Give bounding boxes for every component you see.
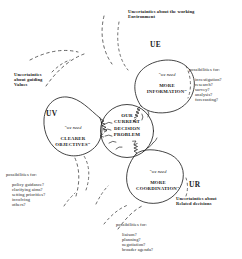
lobe-quote-lead-ur: "we need xyxy=(150,169,167,174)
lobe-quote-lead-uv: "we need xyxy=(65,125,82,130)
lobe-quote-body-uv: CLEARER OBJECTIVES" xyxy=(55,136,90,147)
caption-ue: Uncertainties about the working Environm… xyxy=(128,9,236,19)
possibilities-items-uv: policy guidance? clarifying aims? settin… xyxy=(6,182,68,207)
lobe-code-ur: UR xyxy=(189,181,200,189)
possibilities-items-ue: investigation? research? survey? analysi… xyxy=(189,77,242,102)
caption-ur: Uncertainties about Related decisions xyxy=(176,196,240,206)
possibilities-head-ue: possibilities for: xyxy=(189,67,242,72)
possibilities-head-ur: possibilities for: xyxy=(116,222,196,227)
lobe-code-ue: UE xyxy=(150,41,161,49)
lobe-quote-uv: "we need CLEARER OBJECTIVES" xyxy=(46,119,100,148)
possibilities-uv: possibilities for: policy guidance? clar… xyxy=(6,167,68,212)
possibilities-head-uv: possibilities for: xyxy=(6,172,68,177)
possibilities-ur: possibilities for: liaison? planning? ne… xyxy=(116,217,196,257)
possibilities-items-ur: liaison? planning? negotiation? broader … xyxy=(116,232,196,252)
core-label: OUR CURRENT DECISION PROBLEM xyxy=(103,113,151,138)
connector-ur-to-core xyxy=(133,141,138,153)
diagram-canvas: .ink { fill: none; stroke: #232323; stro… xyxy=(0,0,242,259)
lobe-code-uv: UV xyxy=(46,110,57,118)
lobe-quote-ue: "we need MORE INFORMATION" xyxy=(138,66,196,95)
lobe-quote-lead-ue: "we need xyxy=(159,72,176,77)
leader-ue-caption xyxy=(102,16,128,70)
possibilities-ue: possibilities for: investigation? resear… xyxy=(189,62,242,107)
lobe-quote-body-ur: MORE COORDINATION" xyxy=(136,180,180,191)
lobe-quote-body-ue: MORE INFORMATION" xyxy=(147,83,187,94)
leader-uv-possibilities xyxy=(74,156,89,196)
caption-uv: Uncertainties about guiding Values xyxy=(14,72,66,87)
lobe-quote-ur: "we need MORE COORDINATION" xyxy=(129,163,187,192)
